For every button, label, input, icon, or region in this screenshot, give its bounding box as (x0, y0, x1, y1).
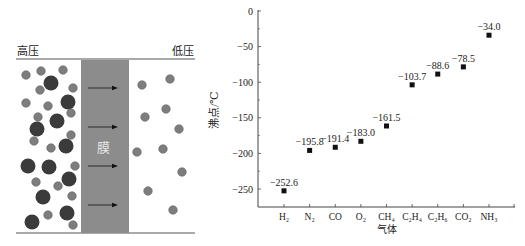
large-molecule (21, 159, 36, 174)
data-point (358, 139, 363, 144)
data-point (461, 64, 466, 69)
x-tick-label: O₂ (356, 212, 366, 222)
small-molecule (22, 71, 31, 80)
small-molecule (30, 137, 39, 146)
small-molecule (69, 84, 78, 93)
y-tick-label: −150 (232, 112, 253, 123)
small-molecule (54, 182, 63, 191)
small-molecule (22, 99, 31, 108)
x-tick-label: NH₃ (480, 212, 497, 222)
x-axis-label: 气体 (377, 223, 397, 235)
y-tick-label: −100 (232, 77, 253, 88)
small-molecule (166, 75, 175, 84)
data-label: −195.8 (296, 136, 324, 147)
x-tick-label: C₂H₆ (428, 212, 448, 222)
membrane-label: 膜 (97, 140, 110, 155)
large-molecule (30, 122, 45, 137)
high-pressure-label: 高压 (17, 44, 39, 57)
y-tick-label: −200 (232, 148, 253, 159)
small-molecule (47, 144, 56, 153)
data-point (410, 82, 415, 87)
large-molecule (50, 114, 65, 129)
data-label: −78.5 (452, 53, 475, 64)
small-molecule (67, 109, 76, 118)
data-label: −34.0 (477, 21, 500, 32)
low-pressure-label: 低压 (172, 45, 194, 57)
small-molecule (133, 148, 142, 157)
membrane-separation-diagram: 高压 低压 膜 (0, 0, 200, 246)
x-tick-label: C₂H₄ (402, 212, 422, 222)
small-molecule (36, 86, 45, 95)
data-point (487, 33, 492, 38)
large-molecule (61, 95, 76, 110)
small-molecule (138, 81, 147, 90)
boiling-point-chart: 沸点/℃ 气体 0−50−100−150−200−250 H₂N₂COO₂CH₄… (200, 0, 525, 246)
small-molecule (37, 67, 46, 76)
large-molecule (36, 190, 51, 205)
small-molecule (44, 211, 53, 220)
small-molecule (162, 105, 171, 114)
data-point (333, 145, 338, 150)
small-molecule (44, 102, 53, 111)
data-point (307, 148, 312, 153)
large-molecule (62, 172, 77, 187)
large-molecule (59, 139, 74, 154)
data-label: −252.6 (270, 177, 298, 188)
small-molecule (141, 113, 150, 122)
data-label: −103.7 (398, 71, 426, 82)
small-molecule (34, 113, 43, 122)
y-ticks: 0−50−100−150−200−250 (232, 6, 261, 195)
x-tick-label: H₂ (279, 212, 289, 222)
x-tick-label: CO (329, 212, 342, 222)
data-point (282, 188, 287, 193)
data-label: −88.6 (426, 60, 449, 71)
x-tick-label: CO₂ (455, 212, 472, 222)
large-molecule (42, 160, 57, 175)
small-molecule (69, 221, 78, 230)
small-molecule (59, 66, 68, 75)
small-molecule (159, 145, 168, 154)
small-molecule (178, 168, 187, 177)
small-molecule (32, 178, 41, 187)
small-molecule (71, 162, 80, 171)
large-molecule (25, 215, 40, 230)
x-tick-label: CH₄ (378, 212, 395, 222)
small-molecule (144, 187, 153, 196)
data-point (384, 123, 389, 128)
small-molecule (175, 125, 184, 134)
y-axis-label: 沸点/℃ (208, 91, 220, 128)
data-point (435, 72, 440, 77)
small-molecule (67, 131, 76, 140)
small-molecule (169, 206, 178, 215)
large-molecule (60, 206, 75, 221)
data-points: −252.6−195.8−191.4−183.0−161.5−103.7−88.… (270, 21, 501, 193)
data-label: −191.4 (321, 133, 349, 144)
y-tick-label: 0 (248, 6, 253, 17)
small-molecule (68, 192, 77, 201)
x-tick-label: N₂ (305, 212, 315, 222)
data-label: −161.5 (372, 112, 400, 123)
data-label: −183.0 (347, 127, 375, 138)
y-tick-label: −50 (237, 41, 253, 52)
y-tick-label: −250 (232, 184, 253, 195)
large-molecule (44, 76, 59, 91)
